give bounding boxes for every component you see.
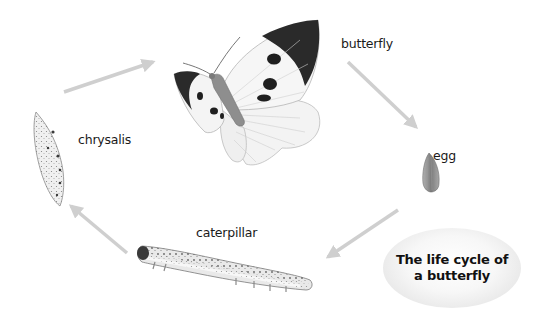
chrysalis-illustration <box>34 112 64 206</box>
arrow-caterpillar-to-chrysalis <box>71 206 127 253</box>
label-caterpillar: caterpillar <box>196 225 257 240</box>
title-line-1: The life cycle of <box>396 252 508 268</box>
label-chrysalis: chrysalis <box>78 132 131 147</box>
label-butterfly: butterfly <box>341 36 393 51</box>
arrow-butterfly-to-egg <box>348 62 416 127</box>
diagram-title-oval: The life cycle of a butterfly <box>383 228 521 308</box>
title-line-2: a butterfly <box>414 268 490 284</box>
butterfly-illustration <box>174 20 320 165</box>
caterpillar-illustration <box>137 246 312 292</box>
label-egg: egg <box>433 148 456 163</box>
arrow-egg-to-caterpillar <box>328 210 398 257</box>
arrow-chrysalis-to-butterfly <box>64 62 153 92</box>
butterfly-life-cycle-diagram: butterfly egg caterpillar chrysalis The … <box>0 0 544 320</box>
